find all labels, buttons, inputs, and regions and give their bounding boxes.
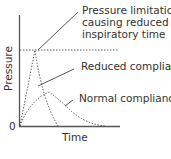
- reduced-compliance-leader: [38, 69, 74, 86]
- normal-compliance-leader: [65, 100, 73, 106]
- y-axis-label: Pressure: [2, 46, 14, 91]
- pressure-limit-leader: [38, 12, 78, 50]
- pressure-limit-label-line-1: Pressure limitation: [82, 4, 171, 16]
- pressure-time-diagram: 0 Time Pressure Pressure limitation caus…: [0, 0, 171, 159]
- x-axis-label: Time: [61, 131, 88, 143]
- pressure-limit-label-line-2: causing reduced: [82, 16, 169, 28]
- origin-label: 0: [9, 120, 16, 132]
- normal-compliance-label: Normal compliance: [79, 92, 171, 104]
- reduced-compliance-label: Reduced compliance: [81, 60, 171, 72]
- pressure-limit-label-line-3: inspiratory time: [82, 28, 166, 40]
